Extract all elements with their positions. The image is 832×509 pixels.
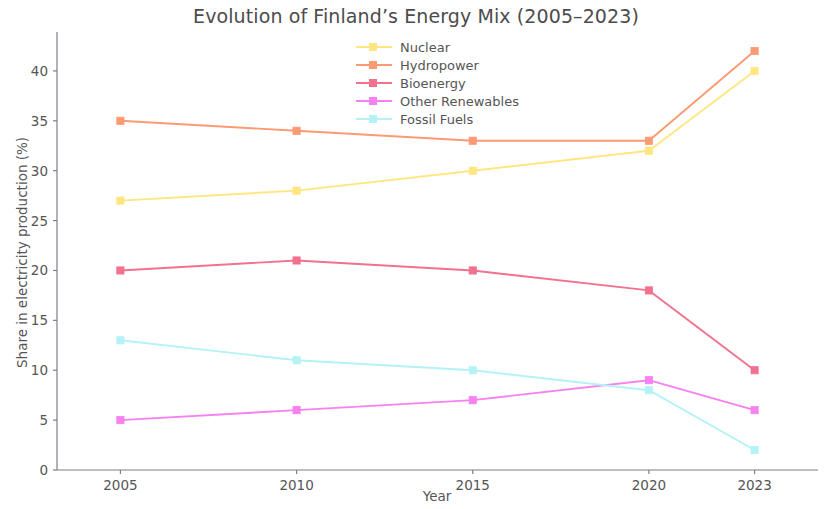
y-tick-label: 40 xyxy=(31,63,48,79)
legend-label-nuclear: Nuclear xyxy=(400,40,450,55)
y-tick-label: 0 xyxy=(39,462,48,478)
legend-label-bioenergy: Bioenergy xyxy=(400,76,466,91)
data-point-bioenergy-2020[interactable] xyxy=(645,287,652,294)
data-point-fossil-fuels-2010[interactable] xyxy=(293,357,300,364)
legend-item-hydropower[interactable]: Hydropower xyxy=(356,56,519,74)
data-point-hydropower-2010[interactable] xyxy=(293,127,300,134)
data-point-other-renewables-2023[interactable] xyxy=(751,407,758,414)
legend-swatch-nuclear xyxy=(356,40,392,54)
data-point-nuclear-2023[interactable] xyxy=(751,67,758,74)
legend-swatch-other-renewables xyxy=(356,94,392,108)
data-point-other-renewables-2010[interactable] xyxy=(293,407,300,414)
data-point-nuclear-2010[interactable] xyxy=(293,187,300,194)
data-point-bioenergy-2010[interactable] xyxy=(293,257,300,264)
data-point-other-renewables-2015[interactable] xyxy=(469,397,476,404)
legend-marker-nuclear xyxy=(369,43,377,51)
legend-label-hydropower: Hydropower xyxy=(400,58,479,73)
y-tick-label: 5 xyxy=(39,412,48,428)
y-tick-label: 30 xyxy=(31,163,48,179)
x-axis-ticks: 20052010201520202023 xyxy=(103,470,772,493)
x-tick-label: 2015 xyxy=(456,477,490,493)
chart-legend: Nuclear Hydropower Bioenergy Other Renew… xyxy=(356,38,519,128)
series-line-other-renewables xyxy=(120,380,754,420)
chart-figure: Evolution of Finland’s Energy Mix (2005–… xyxy=(0,0,832,509)
legend-swatch-hydropower xyxy=(356,58,392,72)
legend-marker-fossil-fuels xyxy=(369,115,377,123)
series-line-fossil-fuels xyxy=(120,340,754,450)
series-bioenergy xyxy=(117,257,758,374)
data-point-bioenergy-2023[interactable] xyxy=(751,367,758,374)
legend-marker-bioenergy xyxy=(369,79,377,87)
y-tick-label: 35 xyxy=(31,113,48,129)
data-point-bioenergy-2015[interactable] xyxy=(469,267,476,274)
legend-item-fossil-fuels[interactable]: Fossil Fuels xyxy=(356,110,519,128)
legend-item-other-renewables[interactable]: Other Renewables xyxy=(356,92,519,110)
legend-label-other-renewables: Other Renewables xyxy=(400,94,519,109)
data-point-other-renewables-2020[interactable] xyxy=(645,377,652,384)
data-point-other-renewables-2005[interactable] xyxy=(117,417,124,424)
legend-swatch-fossil-fuels xyxy=(356,112,392,126)
data-point-hydropower-2020[interactable] xyxy=(645,137,652,144)
y-tick-label: 20 xyxy=(31,262,48,278)
y-tick-label: 15 xyxy=(31,312,48,328)
legend-marker-other-renewables xyxy=(369,97,377,105)
legend-item-bioenergy[interactable]: Bioenergy xyxy=(356,74,519,92)
x-tick-label: 2020 xyxy=(632,477,666,493)
data-point-nuclear-2015[interactable] xyxy=(469,167,476,174)
data-point-fossil-fuels-2005[interactable] xyxy=(117,337,124,344)
data-point-fossil-fuels-2023[interactable] xyxy=(751,446,758,453)
x-tick-label: 2005 xyxy=(103,477,137,493)
data-point-fossil-fuels-2015[interactable] xyxy=(469,367,476,374)
data-point-fossil-fuels-2020[interactable] xyxy=(645,387,652,394)
legend-swatch-bioenergy xyxy=(356,76,392,90)
data-point-nuclear-2005[interactable] xyxy=(117,197,124,204)
series-other-renewables xyxy=(117,377,758,424)
data-point-hydropower-2005[interactable] xyxy=(117,117,124,124)
x-tick-label: 2023 xyxy=(737,477,771,493)
data-point-hydropower-2015[interactable] xyxy=(469,137,476,144)
data-point-nuclear-2020[interactable] xyxy=(645,147,652,154)
y-tick-label: 25 xyxy=(31,213,48,229)
series-fossil-fuels xyxy=(117,337,758,454)
x-tick-label: 2010 xyxy=(279,477,313,493)
data-point-hydropower-2023[interactable] xyxy=(751,47,758,54)
y-tick-label: 10 xyxy=(31,362,48,378)
legend-label-fossil-fuels: Fossil Fuels xyxy=(400,112,473,127)
legend-marker-hydropower xyxy=(369,61,377,69)
legend-item-nuclear[interactable]: Nuclear xyxy=(356,38,519,56)
series-line-bioenergy xyxy=(120,260,754,370)
data-point-bioenergy-2005[interactable] xyxy=(117,267,124,274)
y-axis-ticks: 0510152025303540 xyxy=(31,63,57,478)
